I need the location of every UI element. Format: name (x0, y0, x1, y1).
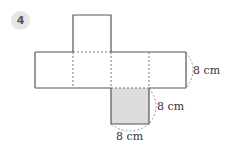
cube-net-diagram: 8 cm 8 cm 8 cm (0, 0, 230, 149)
fold-lines (73, 52, 149, 88)
label-shaded-bottom: 8 cm (116, 130, 144, 143)
shaded-face (111, 88, 149, 124)
label-right-edge: 8 cm (193, 64, 221, 77)
label-shaded-right: 8 cm (157, 100, 185, 113)
